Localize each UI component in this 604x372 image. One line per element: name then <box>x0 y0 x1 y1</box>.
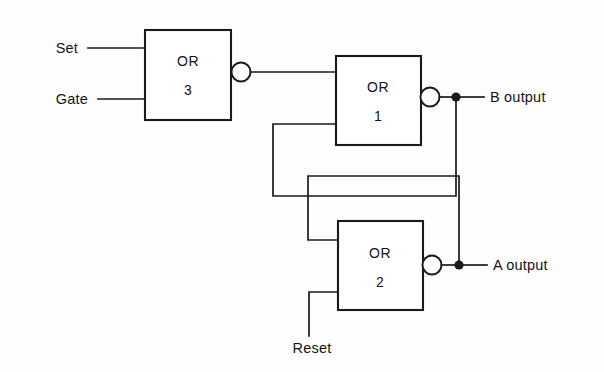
gate-or3-box <box>145 30 231 120</box>
input-label-reset: Reset <box>293 340 332 356</box>
input-label-gate: Gate <box>56 91 88 107</box>
gate-or2-box <box>338 221 423 310</box>
gate-or2-label-line2: 2 <box>376 274 384 290</box>
gate-or1-label-line2: 1 <box>374 108 382 124</box>
gate-or2-inversion-bubble <box>423 256 442 275</box>
output-label-a: A output <box>493 257 548 273</box>
gate-or1-label-line1: OR <box>367 79 389 95</box>
wire-reset-input <box>309 292 338 336</box>
gate-or1-box <box>336 56 421 145</box>
gate-or3-inversion-bubble <box>232 63 251 82</box>
gate-or3-label-line2: 3 <box>184 82 192 98</box>
logic-diagram-svg: OR 3 OR 1 OR 2 Set Gate Reset B output A… <box>0 0 604 372</box>
gate-or3-label-line1: OR <box>177 53 199 69</box>
junction-dot-a-output <box>454 260 463 269</box>
gate-or1-inversion-bubble <box>421 88 440 107</box>
output-label-b: B output <box>490 89 546 105</box>
gate-or2-label-line1: OR <box>369 245 391 261</box>
logic-diagram-canvas: OR 3 OR 1 OR 2 Set Gate Reset B output A… <box>0 0 604 372</box>
input-label-set: Set <box>56 40 78 56</box>
